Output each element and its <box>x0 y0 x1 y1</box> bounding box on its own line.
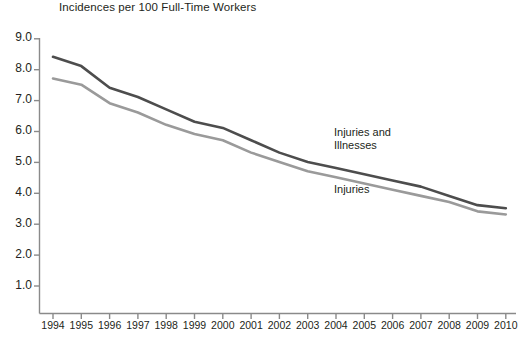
y-tick-label: 1.0 <box>0 278 32 292</box>
y-axis <box>34 38 40 314</box>
chart-plot-area <box>0 0 531 344</box>
y-tick-marks <box>34 39 40 286</box>
x-tick-label: 2004 <box>321 319 351 331</box>
y-tick-label: 3.0 <box>0 216 32 230</box>
y-tick-label: 8.0 <box>0 61 32 75</box>
x-tick-label: 2000 <box>208 319 238 331</box>
y-tick-label: 7.0 <box>0 92 32 106</box>
x-tick-label: 1995 <box>66 319 96 331</box>
x-tick-label: 1997 <box>123 319 153 331</box>
series-label-injuries: Injuries <box>334 183 369 196</box>
series-label-line1: Injuries and <box>334 126 391 139</box>
series-lines <box>53 57 506 215</box>
y-tick-label: 2.0 <box>0 247 32 261</box>
x-tick-label: 2002 <box>264 319 294 331</box>
series-label-line2: Illnesses <box>334 139 391 152</box>
x-tick-label: 1999 <box>180 319 210 331</box>
y-tick-label: 4.0 <box>0 185 32 199</box>
x-tick-label: 2006 <box>378 319 408 331</box>
y-tick-label: 5.0 <box>0 154 32 168</box>
y-tick-label: 9.0 <box>0 30 32 44</box>
x-tick-label: 1994 <box>38 319 68 331</box>
x-tick-label: 2007 <box>406 319 436 331</box>
series-line <box>53 57 506 208</box>
x-tick-label: 2009 <box>463 319 493 331</box>
x-tick-label: 2005 <box>349 319 379 331</box>
x-tick-label: 2008 <box>434 319 464 331</box>
chart-container: Incidences per 100 Full-Time Workers 1.0… <box>0 0 531 344</box>
x-tick-label: 1998 <box>151 319 181 331</box>
series-line <box>53 78 506 214</box>
x-tick-label: 2001 <box>236 319 266 331</box>
x-tick-label: 2003 <box>293 319 323 331</box>
x-tick-label: 2010 <box>491 319 521 331</box>
x-tick-label: 1996 <box>95 319 125 331</box>
y-tick-label: 6.0 <box>0 123 32 137</box>
series-label-injuries-and-illnesses: Injuries and Illnesses <box>334 126 391 152</box>
